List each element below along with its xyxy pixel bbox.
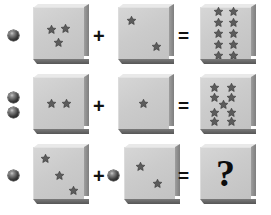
star-grid-row — [213, 6, 239, 17]
puzzle-canvas: + = — [0, 0, 271, 215]
star-icon — [213, 17, 224, 28]
row-2-left-sphere-group — [8, 76, 19, 134]
star-grid-row — [213, 39, 239, 50]
block-right-bevel — [169, 74, 174, 126]
row-1-left-sphere-group — [8, 6, 19, 64]
block-right-bevel — [251, 144, 256, 196]
star-icon — [68, 185, 79, 196]
star-icon — [135, 161, 146, 172]
row-1-middle-star-layer — [118, 7, 169, 59]
row-1-result-block[interactable] — [200, 4, 256, 59]
block-drop-shadow — [200, 199, 256, 204]
plus-operator: + — [93, 26, 105, 46]
sphere-icon — [108, 170, 119, 181]
row-3-middle-star-layer — [124, 147, 175, 199]
block-drop-shadow — [200, 59, 256, 64]
block-drop-shadow — [33, 199, 89, 204]
equals-operator: = — [178, 96, 189, 115]
equals-operator: = — [178, 166, 189, 185]
star-icon — [228, 39, 239, 50]
block-drop-shadow — [118, 59, 174, 64]
star-icon — [151, 41, 162, 52]
row-2-middle-block[interactable] — [118, 74, 174, 129]
star-icon — [152, 178, 163, 189]
star-icon — [213, 39, 224, 50]
star-icon — [40, 153, 51, 164]
star-grid-row — [213, 28, 239, 39]
block-drop-shadow — [124, 199, 180, 204]
row-1-left-star-layer — [33, 7, 84, 59]
row-3-left-star-layer — [33, 147, 84, 199]
puzzle-row-2: + = — [0, 74, 271, 140]
block-right-bevel — [251, 74, 256, 126]
star-icon — [213, 6, 224, 17]
star-icon — [53, 37, 64, 48]
row-2-result-block[interactable] — [200, 74, 256, 129]
row-1-middle-block[interactable] — [118, 4, 174, 59]
block-drop-shadow — [200, 129, 256, 134]
star-icon — [61, 98, 72, 109]
star-icon — [126, 15, 137, 26]
row-2-left-star-layer — [33, 77, 84, 129]
plus-operator: + — [93, 96, 105, 116]
block-drop-shadow — [118, 129, 174, 134]
row-2-result-star-layer — [200, 77, 251, 129]
star-icon — [228, 17, 239, 28]
block-right-bevel — [251, 4, 256, 56]
sphere-icon — [8, 170, 19, 181]
row-1-result-star-grid — [200, 7, 251, 59]
block-right-bevel — [84, 144, 89, 196]
star-icon — [138, 98, 149, 109]
row-1-left-block[interactable] — [33, 4, 89, 59]
star-icon — [228, 50, 239, 61]
star-icon — [46, 24, 57, 35]
star-grid-row — [213, 17, 239, 28]
row-3-middle-sphere-group — [108, 146, 119, 204]
equals-operator: = — [178, 26, 189, 45]
row-2-left-block[interactable] — [33, 74, 89, 129]
star-icon — [228, 6, 239, 17]
star-icon — [213, 50, 224, 61]
plus-operator: + — [93, 166, 105, 186]
block-drop-shadow — [33, 129, 89, 134]
row-3-middle-block[interactable] — [124, 144, 180, 199]
star-icon — [60, 23, 71, 34]
star-icon — [226, 116, 237, 127]
sphere-icon — [8, 30, 19, 41]
puzzle-row-3: + = ? — [0, 144, 271, 210]
block-right-bevel — [84, 4, 89, 56]
block-drop-shadow — [33, 59, 89, 64]
row-2-middle-star-layer — [118, 77, 169, 129]
star-icon — [209, 116, 220, 127]
row-3-left-block[interactable] — [33, 144, 89, 199]
block-right-bevel — [169, 4, 174, 56]
star-icon — [228, 28, 239, 39]
row-3-result-block[interactable]: ? — [200, 144, 256, 199]
puzzle-row-1: + = — [0, 4, 271, 70]
star-icon — [213, 28, 224, 39]
sphere-icon — [8, 107, 19, 118]
star-icon — [46, 98, 57, 109]
block-right-bevel — [84, 74, 89, 126]
row-3-left-sphere-group — [8, 146, 19, 204]
star-icon — [54, 170, 65, 181]
sphere-icon — [8, 92, 19, 103]
star-grid-row — [213, 50, 239, 61]
question-mark-answer: ? — [200, 147, 251, 199]
